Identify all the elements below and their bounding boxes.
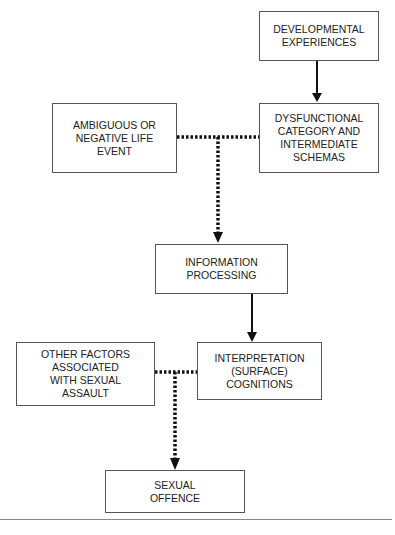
node-other-factors: OTHER FACTORS ASSOCIATED WITH SEXUAL ASS… [16, 342, 155, 406]
node-dysfunctional-schemas: DYSFUNCTIONAL CATEGORY AND INTERMEDIATE … [259, 103, 379, 173]
node-label: INFORMATION PROCESSING [185, 256, 258, 282]
arrowhead-icon [312, 93, 322, 102]
node-label: DYSFUNCTIONAL CATEGORY AND INTERMEDIATE … [275, 112, 364, 164]
node-label: AMBIGUOUS OR NEGATIVE LIFE EVENT [73, 119, 156, 158]
arrowhead-icon [213, 232, 223, 243]
arrowhead-icon [247, 332, 257, 342]
node-label: DEVELOPMENTAL EXPERIENCES [273, 23, 364, 49]
node-sexual-offence: SEXUAL OFFENCE [105, 470, 245, 513]
node-label: INTERPRETATION (SURFACE) COGNITIONS [214, 352, 304, 391]
node-label: OTHER FACTORS ASSOCIATED WITH SEXUAL ASS… [41, 348, 130, 400]
node-information-processing: INFORMATION PROCESSING [155, 244, 288, 294]
arrowhead-icon [170, 458, 180, 470]
node-interpretation-cognitions: INTERPRETATION (SURFACE) COGNITIONS [197, 342, 322, 400]
node-ambiguous-life-event: AMBIGUOUS OR NEGATIVE LIFE EVENT [52, 103, 177, 173]
node-label: SEXUAL OFFENCE [150, 479, 200, 505]
bottom-divider [0, 519, 392, 520]
node-developmental-experiences: DEVELOPMENTAL EXPERIENCES [259, 11, 379, 61]
